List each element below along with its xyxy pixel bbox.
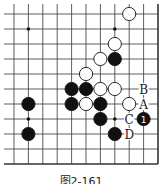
star-point: [113, 27, 117, 31]
star-point: [27, 27, 31, 31]
go-board: BACD1: [0, 0, 162, 170]
white-stone: [123, 7, 136, 20]
move-number: 1: [141, 115, 147, 125]
black-stone: [22, 97, 35, 110]
black-stone: [65, 82, 78, 95]
star-point: [27, 117, 31, 121]
black-stone: [22, 127, 35, 140]
figure-caption: 图2-161: [0, 172, 162, 184]
black-stone: [94, 97, 107, 110]
white-stone: [94, 82, 107, 95]
black-stone: [79, 82, 92, 95]
white-stone: [79, 97, 92, 110]
white-stone: [108, 82, 121, 95]
white-stone: [108, 37, 121, 50]
black-stone: [108, 127, 121, 140]
black-stone: [65, 97, 78, 110]
point-label-c: C: [125, 113, 134, 127]
black-stone: [94, 112, 107, 125]
point-label-a: A: [138, 98, 148, 112]
black-stone: [108, 52, 121, 65]
star-point: [113, 117, 117, 121]
white-stone: [123, 97, 136, 110]
white-stone: [79, 67, 92, 80]
white-stone: [94, 52, 107, 65]
point-label-d: D: [124, 128, 134, 142]
point-label-b: B: [139, 83, 148, 97]
